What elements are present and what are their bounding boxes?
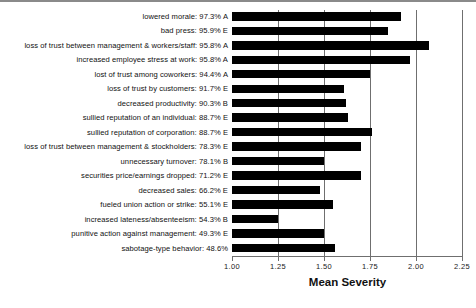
- category-label: sullied reputation of an individual: 88.…: [2, 111, 228, 125]
- bar-row: [232, 97, 462, 111]
- bar-row: [232, 82, 462, 96]
- x-tick-label: 2.25: [454, 262, 470, 271]
- category-label: unnecessary turnover: 78.1% B: [2, 155, 228, 169]
- category-label: punitive action against management: 49.3…: [2, 227, 228, 241]
- bar-row: [232, 227, 462, 241]
- mean-severity-bar-chart: lowered morale: 97.3% Abad press: 95.9% …: [0, 0, 476, 308]
- category-label: lost of trust among coworkers: 94.4% A: [2, 68, 228, 82]
- bar-row: [232, 111, 462, 125]
- bar: [232, 229, 324, 237]
- plot-area: [232, 10, 462, 256]
- x-tick-1.50: [324, 256, 325, 261]
- x-tick-1.75: [370, 256, 371, 261]
- x-tick-1.25: [278, 256, 279, 261]
- bar: [232, 113, 348, 121]
- bar: [232, 70, 370, 78]
- bar-row: [232, 184, 462, 198]
- gridline-2.25: [462, 10, 463, 256]
- bar: [232, 142, 361, 150]
- x-axis-line: [232, 256, 463, 257]
- category-label: fueled union action or strike: 55.1% E: [2, 198, 228, 212]
- x-tick-label: 1.75: [362, 262, 378, 271]
- x-tick-2.25: [462, 256, 463, 261]
- category-label-column: lowered morale: 97.3% Abad press: 95.9% …: [0, 10, 228, 256]
- category-label: bad press: 95.9% E: [2, 24, 228, 38]
- bar-row: [232, 198, 462, 212]
- x-tick-label: 1.25: [270, 262, 286, 271]
- bar-row: [232, 213, 462, 227]
- bar-row: [232, 169, 462, 183]
- bar-row: [232, 126, 462, 140]
- category-label: decreased productivity: 90.3% B: [2, 97, 228, 111]
- bar-row: [232, 68, 462, 82]
- bar: [232, 27, 388, 35]
- x-tick-2.00: [416, 256, 417, 261]
- bar: [232, 41, 429, 49]
- bar: [232, 186, 320, 194]
- bar-row: [232, 53, 462, 67]
- bar: [232, 12, 401, 20]
- bar: [232, 56, 410, 64]
- bar: [232, 157, 324, 165]
- category-label: loss of trust between management & worke…: [2, 39, 228, 53]
- x-tick-label: 1.00: [224, 262, 240, 271]
- bar-row: [232, 24, 462, 38]
- x-tick-1.00: [232, 256, 233, 261]
- bar: [232, 244, 335, 252]
- bar-row: [232, 140, 462, 154]
- x-tick-label: 2.00: [408, 262, 424, 271]
- category-label: securities price/earnings dropped: 71.2%…: [2, 169, 228, 183]
- bar: [232, 128, 372, 136]
- category-label: increased lateness/absenteeism: 54.3% B: [2, 213, 228, 227]
- bar-row: [232, 39, 462, 53]
- x-tick-label: 1.50: [316, 262, 332, 271]
- bar: [232, 215, 278, 223]
- bar: [232, 171, 361, 179]
- bar: [232, 85, 344, 93]
- figure-bottom-margin: [0, 302, 476, 308]
- bar-row: [232, 155, 462, 169]
- bar-row: [232, 242, 462, 256]
- category-label: increased employee stress at work: 95.8%…: [2, 53, 228, 67]
- category-label: sullied reputation of corporation: 88.7%…: [2, 126, 228, 140]
- category-label: loss of trust by customers: 91.7% E: [2, 82, 228, 96]
- category-label: sabotage-type behavior: 48.6%: [2, 242, 228, 256]
- category-label: lowered morale: 97.3% A: [2, 10, 228, 24]
- category-label: decreased sales: 66.2% E: [2, 184, 228, 198]
- x-axis-title: Mean Severity: [232, 276, 463, 288]
- bar-row: [232, 10, 462, 24]
- bar: [232, 200, 333, 208]
- bar: [232, 99, 346, 107]
- category-label: loss of trust between management & stock…: [2, 140, 228, 154]
